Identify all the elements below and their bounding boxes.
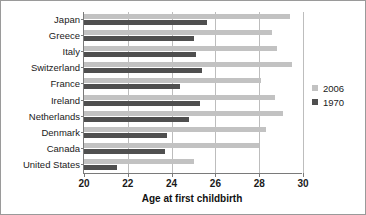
x-axis-tick-label: 22 [122,178,133,189]
x-axis-tick-label: 24 [166,178,177,189]
legend-label: 2006 [323,83,344,94]
chart-category-row: United States [84,157,302,173]
chart-legend: 20061970 [312,81,344,109]
chart-category-row: Greece [84,28,302,44]
chart-category-row: France [84,76,302,92]
chart-bar [84,143,259,148]
y-axis-category-label: Italy [63,44,80,60]
chart-bar [84,159,194,164]
x-axis-tick [84,173,85,177]
x-axis-tick [215,173,216,177]
chart-bar [84,133,167,138]
chart-category-row: Denmark [84,125,302,141]
chart-bar [84,62,292,67]
y-axis-category-label: Ireland [51,93,80,109]
chart-bar [84,36,194,41]
chart-bar [84,149,165,154]
chart-bar [84,95,275,100]
x-axis-title: Age at first childbirth [83,193,301,204]
chart-bar [84,84,180,89]
chart-bar [84,111,283,116]
chart-category-row: Netherlands [84,109,302,125]
y-axis-category-label: Netherlands [29,109,80,125]
plot-area: 202224262830JapanGreeceItalySwitzerlandF… [83,12,302,174]
y-axis-category-label: Canada [47,141,80,157]
legend-label: 1970 [323,97,344,108]
chart-category-row: Canada [84,141,302,157]
y-axis-category-label: France [50,76,80,92]
chart-bar [84,14,290,19]
chart-category-row: Japan [84,12,302,28]
chart-bar [84,20,207,25]
chart-bar [84,68,202,73]
x-axis-tick [303,173,304,177]
legend-entry: 2006 [312,81,344,95]
chart-category-row: Switzerland [84,60,302,76]
chart-category-row: Ireland [84,93,302,109]
chart-container: 202224262830JapanGreeceItalySwitzerlandF… [0,0,366,215]
legend-swatch [312,85,318,91]
chart-bar [84,101,200,106]
chart-bar [84,46,277,51]
legend-entry: 1970 [312,95,344,109]
legend-swatch [312,99,318,105]
chart-bar [84,165,117,170]
y-axis-category-label: Japan [54,12,80,28]
y-axis-category-label: Greece [49,28,80,44]
chart-category-row: Italy [84,44,302,60]
y-axis-category-label: United States [23,157,80,173]
x-axis-tick-label: 26 [210,178,221,189]
y-axis-category-label: Switzerland [31,60,80,76]
chart-bar [84,78,261,83]
chart-bar [84,52,196,57]
chart-bar [84,30,272,35]
x-axis-tick [172,173,173,177]
x-axis-tick-label: 30 [297,178,308,189]
y-axis-category-label: Denmark [41,125,80,141]
chart-bar [84,127,266,132]
x-axis-tick-label: 28 [254,178,265,189]
x-axis-tick-label: 20 [78,178,89,189]
chart-bar [84,117,189,122]
x-axis-tick [259,173,260,177]
gridline [303,12,304,173]
x-axis-tick [128,173,129,177]
